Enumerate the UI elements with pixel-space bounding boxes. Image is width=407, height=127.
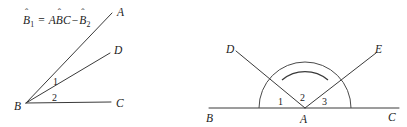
outer-angle-arc — [259, 62, 351, 108]
point-label-A-left: A — [116, 6, 125, 18]
point-label-C-right: C — [388, 111, 396, 123]
angle-label-2-left: 2 — [52, 92, 57, 103]
ray-BD — [26, 53, 110, 103]
ray-BC — [26, 102, 111, 103]
point-label-E-right: E — [374, 43, 382, 55]
left-panel-group: A D B C 1 2 — [14, 6, 125, 112]
right-panel-group: D E B A C 1 2 3 — [206, 43, 399, 125]
point-label-C-left: C — [116, 97, 124, 109]
point-label-D-right: D — [225, 43, 235, 55]
angle-label-1-left: 1 — [53, 76, 58, 87]
geometry-figure: ˆB1 = AˆBC−ˆB2 A D B C 1 2 D E — [0, 0, 407, 127]
inner-angle-arc — [282, 72, 328, 80]
angle-label-1-right: 1 — [278, 96, 283, 107]
point-label-B-left: B — [14, 100, 21, 112]
point-label-B-right: B — [206, 112, 213, 124]
ray-AE-right — [305, 53, 376, 108]
figure-canvas: A D B C 1 2 D E B A C 1 2 3 — [0, 0, 407, 127]
point-label-D-left: D — [113, 44, 123, 56]
point-label-A-right: A — [299, 113, 308, 125]
ray-BA — [26, 13, 112, 103]
angle-label-2-right: 2 — [300, 92, 305, 103]
angle-label-3-right: 3 — [322, 96, 327, 107]
ray-AD-right — [236, 51, 305, 108]
